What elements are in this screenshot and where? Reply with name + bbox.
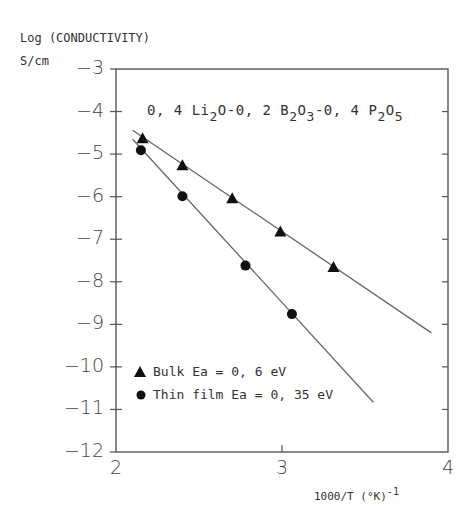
circle-marker-icon bbox=[240, 261, 250, 271]
legend-circle-icon bbox=[137, 391, 146, 400]
legend-triangle-icon bbox=[134, 366, 146, 377]
legend-film-label: Thin film Ea = 0, 35 eV bbox=[153, 387, 333, 402]
triangle-marker-icon bbox=[226, 192, 238, 203]
circle-marker-icon bbox=[287, 309, 297, 319]
plot-area bbox=[0, 0, 472, 517]
circle-marker-icon bbox=[177, 191, 187, 201]
circle-marker-icon bbox=[136, 145, 146, 155]
triangle-marker-icon bbox=[327, 261, 339, 272]
legend-bulk-label: Bulk Ea = 0, 6 eV bbox=[153, 364, 286, 379]
